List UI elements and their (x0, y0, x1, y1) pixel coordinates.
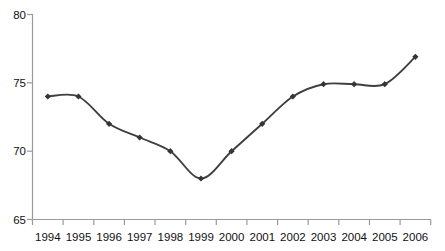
x-tick-label-2005: 2005 (368, 231, 402, 243)
data-point-2003 (320, 81, 326, 87)
y-tick-label-70: 70 (0, 145, 26, 157)
x-axis-ticks (33, 220, 431, 226)
x-tick-label-1994: 1994 (31, 231, 65, 243)
data-point-2004 (351, 81, 357, 87)
chart-plot-area (0, 0, 445, 251)
x-tick-label-2000: 2000 (215, 231, 249, 243)
x-tick-label-2004: 2004 (337, 231, 371, 243)
x-tick-label-1998: 1998 (153, 231, 187, 243)
y-tick-label-75: 75 (0, 77, 26, 89)
x-tick-label-2001: 2001 (245, 231, 279, 243)
x-tick-label-1997: 1997 (123, 231, 157, 243)
y-tick-label-80: 80 (0, 9, 26, 21)
x-tick-label-2003: 2003 (307, 231, 341, 243)
data-point-1999 (198, 175, 204, 181)
x-tick-label-1996: 1996 (92, 231, 126, 243)
line-chart: 80 75 70 65 1994 1995 1996 1997 1998 199… (0, 0, 445, 251)
y-tick-label-65: 65 (0, 214, 26, 226)
x-tick-label-1999: 1999 (184, 231, 218, 243)
x-tick-label-2002: 2002 (276, 231, 310, 243)
x-tick-label-2006: 2006 (398, 231, 432, 243)
data-point-1994 (45, 93, 51, 99)
data-point-1997 (137, 134, 143, 140)
data-series-line (48, 57, 416, 179)
x-tick-label-1995: 1995 (62, 231, 96, 243)
y-axis-ticks (27, 15, 33, 220)
